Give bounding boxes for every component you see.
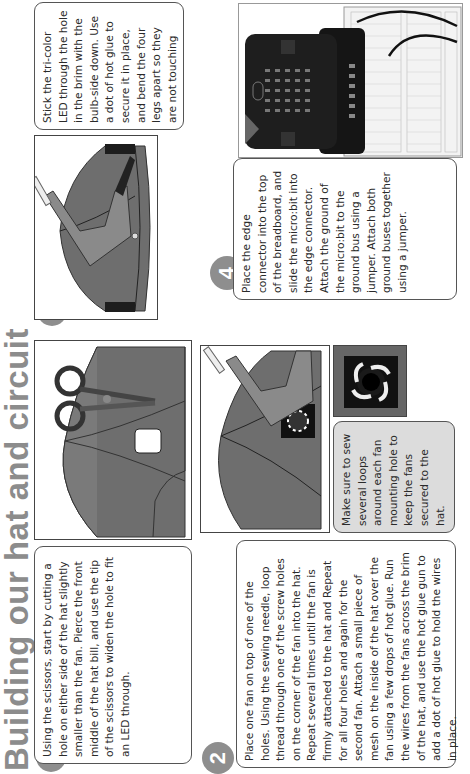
step-4-text: Place the edge connector into the top of… (240, 171, 408, 293)
step-1-instructions: Using the scissors, start by cutting a h… (34, 546, 192, 764)
step-2-note: Make sure to sew several loops around ea… (333, 421, 455, 533)
step-2-text: Place one fan on top of one of the holes… (243, 552, 458, 761)
step-4-image (238, 3, 463, 158)
page-title: Building our hat and circuit (0, 301, 34, 771)
fan-closeup-illustration (334, 346, 407, 417)
step-3-instructions: Stick the tri-color LED through the hole… (34, 2, 184, 130)
glue-gun-led-illustration (35, 136, 158, 320)
fan-closeup-image (333, 345, 407, 417)
step-4-instructions: Place the edge connector into the top of… (233, 158, 457, 300)
step-3-text: Stick the tri-color LED through the hole… (41, 10, 178, 123)
step-2-image (200, 345, 330, 533)
step-3-image (34, 135, 158, 320)
step-2-instructions: Place one fan on top of one of the holes… (236, 540, 456, 768)
microbit-breadboard-diagram (239, 4, 463, 158)
glue-gun-fan-hat-illustration (201, 346, 330, 533)
step-1-text: Using the scissors, start by cutting a h… (41, 557, 131, 757)
step-2-badge: 2 (202, 742, 234, 774)
scissors-hat-illustration (35, 341, 192, 540)
step-2-note-text: Make sure to sew several loops around ea… (340, 434, 446, 526)
step-1-image (34, 340, 192, 540)
